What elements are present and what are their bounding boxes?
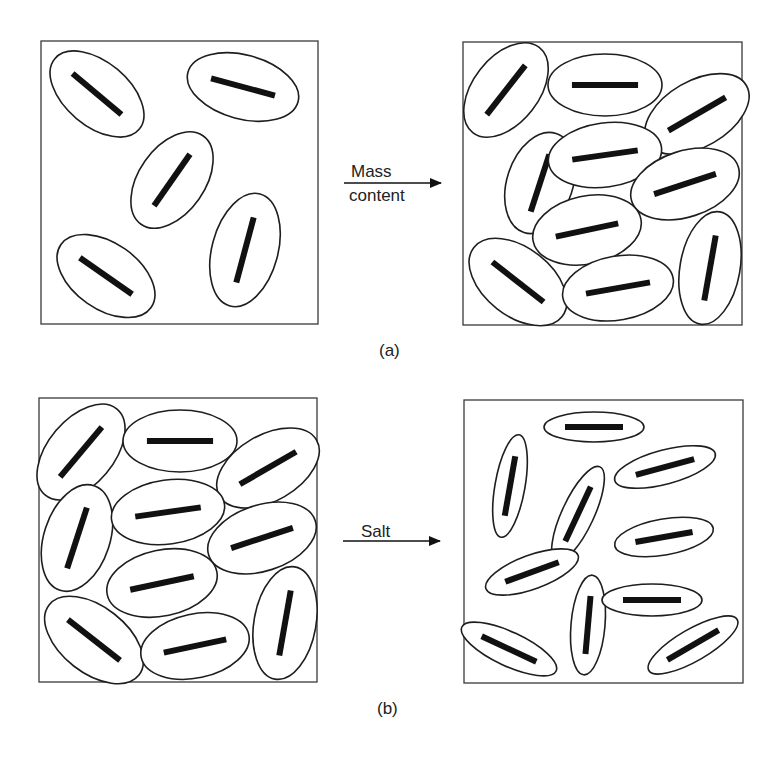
particle — [123, 410, 237, 472]
particle — [42, 217, 170, 334]
particle — [567, 574, 610, 677]
arrow-label-content: content — [349, 187, 405, 204]
panel-a-after-particles — [447, 27, 763, 343]
panel-b-before-particles — [20, 388, 333, 701]
particle — [612, 511, 717, 564]
arrow-label-mass: Mass — [351, 163, 392, 180]
panel-a-label: (a) — [379, 342, 400, 359]
particle — [602, 584, 702, 616]
panel-b-label: (b) — [377, 700, 398, 717]
particle — [455, 612, 564, 687]
particle — [544, 412, 644, 442]
particle — [198, 185, 292, 314]
panel-a-before-particles — [34, 34, 306, 334]
particle — [610, 437, 719, 497]
particle — [486, 432, 534, 540]
diagram-canvas — [0, 0, 779, 758]
particle — [180, 41, 307, 132]
particle — [480, 539, 584, 604]
particle — [641, 606, 745, 685]
particle — [548, 54, 662, 116]
particle — [34, 34, 159, 154]
arrow-label-salt: Salt — [361, 523, 390, 540]
particle — [245, 561, 326, 684]
particle — [671, 207, 750, 330]
panel-b-after-particles — [455, 412, 745, 686]
